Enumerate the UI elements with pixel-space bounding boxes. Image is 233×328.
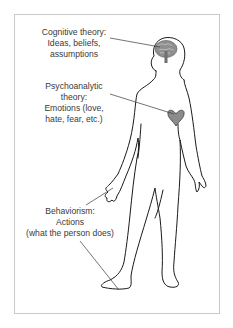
- behaviorism-foot-leader-line: [80, 241, 119, 290]
- label-line: Emotions (love,: [38, 103, 110, 114]
- cognitive-theory-label: Cognitive theory: Ideas, beliefs, assump…: [38, 27, 110, 60]
- psychoanalytic-leader-line: [110, 94, 174, 114]
- label-line: theory:: [38, 92, 110, 103]
- label-line: assumptions: [38, 49, 110, 60]
- label-line: Behaviorism:: [20, 206, 120, 217]
- label-line: hate, fear, etc.): [38, 114, 110, 125]
- body-outline: [101, 37, 206, 289]
- label-line: Cognitive theory:: [38, 27, 110, 38]
- psychoanalytic-theory-label: Psychoanalytic theory: Emotions (love, h…: [38, 81, 110, 125]
- label-line: Ideas, beliefs,: [38, 38, 110, 49]
- cognitive-leader-line: [110, 38, 160, 47]
- behaviorism-hand-leader-line: [86, 188, 113, 205]
- label-line: Psychoanalytic: [38, 81, 110, 92]
- label-line: (what the person does): [20, 228, 120, 239]
- brain-icon: [155, 41, 177, 64]
- human-figure: [0, 0, 233, 328]
- behaviorism-label: Behaviorism: Actions (what the person do…: [20, 206, 120, 239]
- label-line: Actions: [20, 217, 120, 228]
